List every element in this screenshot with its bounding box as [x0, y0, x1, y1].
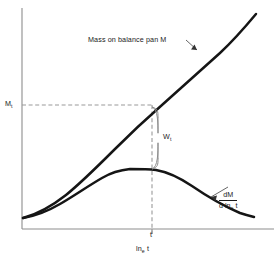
brace-wt-bracket — [152, 107, 158, 169]
curve-label-derivative: dM d lne t — [219, 190, 237, 210]
derivative-numerator: dM — [219, 190, 237, 201]
x-axis-title-subscript: e — [142, 248, 145, 254]
x-axis-tick-label-t: t — [150, 231, 152, 239]
derivative-denominator-suffix: t — [235, 201, 237, 210]
chart-figure: Mass on balance pan M Mt Wt t lne t dM d… — [0, 0, 278, 263]
curve-label-mass-on-balance-pan: Mass on balance pan M — [88, 36, 166, 44]
curve-mass-on-balance-pan — [23, 14, 256, 218]
brace-symbol: W — [163, 132, 170, 141]
x-axis-title: lne t — [136, 245, 149, 253]
brace-label-wt: Wt — [163, 133, 171, 141]
y-axis-subscript: t — [11, 103, 13, 109]
derivative-denominator-subscript: e — [231, 205, 234, 211]
derivative-denominator: d lne t — [219, 201, 237, 211]
x-axis-title-suffix: t — [147, 244, 149, 253]
x-axis-title-prefix: ln — [136, 244, 142, 253]
derivative-denominator-prefix: d ln — [219, 201, 231, 210]
y-axis-tick-label-mt: Mt — [5, 100, 13, 108]
